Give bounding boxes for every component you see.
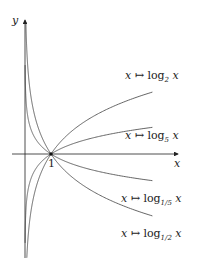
label-log5: x ↦ log5 x	[125, 129, 180, 144]
point-one-zero	[50, 153, 53, 156]
log-functions-plot: 1 x y x ↦ log2 x x ↦ log5 x x ↦ log1/5 x…	[0, 0, 198, 262]
svg-text:x ↦ log5 x: x ↦ log5 x	[125, 129, 180, 144]
svg-text:x ↦ log2 x: x ↦ log2 x	[125, 69, 180, 84]
svg-text:x ↦ log1/5 x: x ↦ log1/5 x	[121, 192, 182, 207]
label-log1-2: x ↦ log1/2 x	[121, 227, 182, 242]
svg-text:x ↦ log1/2 x: x ↦ log1/2 x	[121, 227, 182, 242]
curve-5	[25, 127, 152, 243]
tick-label-one: 1	[48, 157, 55, 170]
curve-1-5	[25, 65, 152, 181]
label-log2: x ↦ log2 x	[125, 69, 180, 84]
x-axis-label: x	[174, 157, 181, 170]
y-axis-label: y	[11, 14, 19, 27]
label-log1-5: x ↦ log1/5 x	[121, 192, 182, 207]
